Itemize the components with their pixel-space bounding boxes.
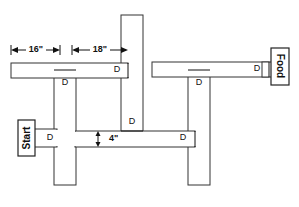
dimension-18-label: 18" [93, 44, 107, 54]
dimension-16-label: 16" [29, 44, 43, 54]
food-label: Food [275, 54, 286, 78]
corridor-start-stub [33, 129, 57, 147]
arrow-head-left-16 [11, 47, 18, 53]
dimension-4-label: 4" [109, 133, 118, 143]
door-label-right-upper: D [196, 77, 203, 87]
door-label-top-left: D [114, 64, 121, 74]
start-label: Start [21, 126, 32, 149]
door-label-start: D [47, 132, 54, 142]
arrow-head-left-18 [72, 47, 79, 53]
dimension-18: 18" [72, 44, 128, 56]
junction-right-lower [189, 132, 209, 146]
maze-diagram: 16" 18" 4" D D D D D D D Start Food [0, 0, 299, 207]
dimension-16: 16" [11, 44, 60, 56]
junction-left-lower [55, 132, 76, 146]
junction-center-lower [122, 132, 142, 146]
maze-canvas: 16" 18" 4" D D D D D D D Start Food [0, 0, 299, 207]
door-label-center-low: D [129, 116, 136, 126]
door-label-top-right: D [254, 63, 261, 73]
corridor-top-right [152, 62, 269, 77]
door-label-lower: D [180, 132, 187, 142]
junction-center-top [122, 64, 142, 77]
arrow-head-right-16 [53, 47, 60, 53]
door-label-left-upper: D [62, 77, 69, 87]
